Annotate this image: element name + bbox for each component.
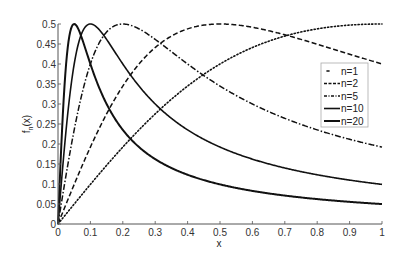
y-tick-label: 0.35 [37,79,57,90]
y-tick-label: 0.25 [37,119,57,130]
y-tick-label: 0.2 [42,139,56,150]
y-tick-label: 0.4 [42,59,56,70]
y-tick-label: 0 [50,219,56,230]
y-tick-label: 0.1 [42,179,56,190]
x-tick-label: 0.2 [116,227,130,238]
x-axis-label: x [217,238,222,249]
y-tick-label: 0.15 [37,159,57,170]
x-tick-label: 0.9 [343,227,357,238]
svg-text:fn(x): fn(x) [21,115,34,133]
x-tick-label: 0 [55,227,61,238]
legend-label: n=2 [341,78,358,89]
line-chart: 00.10.20.30.40.50.60.70.80.91 00.050.10.… [0,0,404,256]
legend-label: n=5 [341,91,358,102]
x-tick-label: 0.8 [310,227,324,238]
x-tick-label: 0.1 [83,227,97,238]
y-tick-label: 0.45 [37,39,57,50]
legend-label: n=10 [341,103,364,114]
y-axis-ticks: 00.050.10.150.20.250.30.350.40.450.5 [37,19,61,230]
y-tick-label: 0.5 [42,19,56,30]
y-tick-label: 0.05 [37,199,57,210]
x-tick-label: 0.4 [181,227,195,238]
y-tick-label: 0.3 [42,99,56,110]
legend: n=1n=2n=5n=10n=20 [321,63,368,127]
x-tick-label: 0.5 [213,227,227,238]
y-axis-label: fn(x) [21,115,34,133]
x-tick-label: 0.6 [245,227,259,238]
x-tick-label: 0.7 [278,227,292,238]
x-tick-label: 1 [379,227,385,238]
x-tick-label: 0.3 [148,227,162,238]
legend-label: n=1 [341,66,358,77]
legend-label: n=20 [341,116,364,127]
